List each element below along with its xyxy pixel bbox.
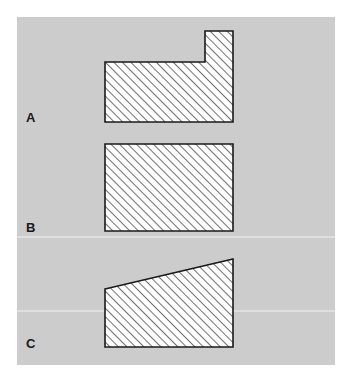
row-label-c: C	[26, 337, 36, 350]
cross-section-shape-b	[105, 144, 233, 231]
row-label-b: B	[26, 221, 36, 234]
cross-section-shape-a	[105, 31, 233, 122]
shapes-svg-layer	[0, 0, 351, 372]
cross-section-shape-c	[105, 259, 233, 347]
row-label-a: A	[26, 111, 36, 124]
figure-root: A B C	[0, 0, 351, 372]
